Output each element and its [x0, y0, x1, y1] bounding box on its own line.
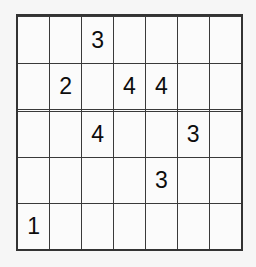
puzzle-grid-row: 43: [18, 111, 241, 157]
puzzle-cell-empty[interactable]: [18, 63, 50, 109]
puzzle-grid-frame: 32444331: [16, 14, 243, 251]
puzzle-grid: 32444331: [18, 16, 241, 249]
puzzle-cell-empty[interactable]: [114, 111, 146, 157]
puzzle-cell-empty[interactable]: [177, 63, 209, 109]
puzzle-cell-empty[interactable]: [114, 157, 146, 203]
puzzle-cell-empty[interactable]: [82, 204, 114, 249]
puzzle-cell-empty[interactable]: [177, 17, 209, 63]
puzzle-cell-filled[interactable]: 1: [18, 204, 50, 249]
puzzle-cell-filled[interactable]: 3: [177, 111, 209, 157]
puzzle-grid-row: 3: [18, 157, 241, 203]
puzzle-cell-filled[interactable]: 4: [145, 63, 177, 109]
puzzle-cell-empty[interactable]: [18, 17, 50, 63]
puzzle-cell-empty[interactable]: [114, 17, 146, 63]
puzzle-cell-empty[interactable]: [50, 157, 82, 203]
puzzle-cell-empty[interactable]: [177, 157, 209, 203]
puzzle-cell-empty[interactable]: [145, 111, 177, 157]
puzzle-cell-filled[interactable]: 2: [50, 63, 82, 109]
puzzle-grid-row: 244: [18, 63, 241, 109]
puzzle-cell-empty[interactable]: [82, 157, 114, 203]
puzzle-cell-empty[interactable]: [82, 63, 114, 109]
puzzle-cell-empty[interactable]: [145, 204, 177, 249]
puzzle-cell-empty[interactable]: [209, 17, 241, 63]
puzzle-grid-row: 1: [18, 204, 241, 249]
puzzle-cell-empty[interactable]: [50, 17, 82, 63]
puzzle-cell-empty[interactable]: [50, 111, 82, 157]
puzzle-cell-empty[interactable]: [114, 204, 146, 249]
puzzle-cell-empty[interactable]: [177, 204, 209, 249]
puzzle-cell-empty[interactable]: [18, 111, 50, 157]
puzzle-cell-empty[interactable]: [209, 204, 241, 249]
puzzle-stage: 32444331: [0, 0, 256, 267]
puzzle-grid-row: 3: [18, 17, 241, 63]
puzzle-cell-empty[interactable]: [209, 157, 241, 203]
puzzle-grid-body: 32444331: [18, 16, 241, 249]
puzzle-cell-empty[interactable]: [50, 204, 82, 249]
puzzle-cell-filled[interactable]: 4: [82, 111, 114, 157]
puzzle-cell-filled[interactable]: 3: [82, 17, 114, 63]
puzzle-cell-empty[interactable]: [145, 17, 177, 63]
puzzle-cell-filled[interactable]: 4: [114, 63, 146, 109]
puzzle-cell-filled[interactable]: 3: [145, 157, 177, 203]
puzzle-cell-empty[interactable]: [209, 63, 241, 109]
puzzle-cell-empty[interactable]: [18, 157, 50, 203]
puzzle-cell-empty[interactable]: [209, 111, 241, 157]
